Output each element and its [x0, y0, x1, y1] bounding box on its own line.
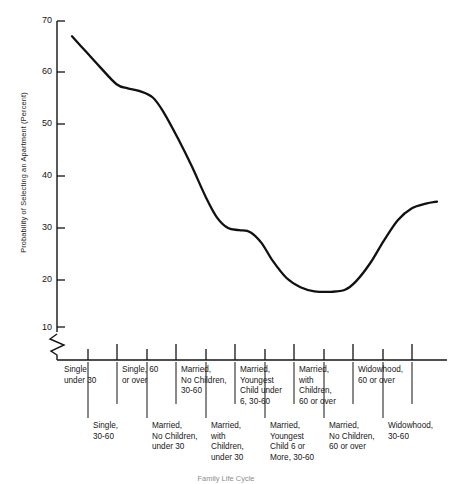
category-label-upper-5: Married, with Children, 60 or over: [299, 365, 353, 407]
figure-caption: Family Life Cycle: [0, 474, 452, 483]
category-label-upper-1: Single under 30: [64, 365, 116, 386]
chart-figure: Probability of Selecting an Apartment (P…: [0, 0, 452, 484]
data-curve: [72, 36, 437, 292]
category-label-lower-6: Widowhood, 30-60: [388, 421, 446, 442]
y-axis-break-icon: [50, 334, 64, 360]
x-tick-marks: [88, 344, 412, 360]
category-label-upper-2: Single, 60 or over: [122, 365, 174, 386]
category-label-lower-3: Married, with Children, under 30: [211, 421, 263, 463]
plot-area: [0, 0, 452, 484]
category-label-upper-6: Widowhood, 60 or over: [358, 365, 416, 386]
y-tick-marks: [57, 21, 65, 327]
category-label-lower-5: Married, No Children, 60 or over: [329, 421, 383, 453]
category-label-lower-1: Single, 30-60: [93, 421, 145, 442]
category-label-upper-3: Married, No Children, 30-60: [181, 365, 235, 397]
category-label-lower-2: Married, No Children, under 30: [152, 421, 206, 453]
category-label-upper-4: Married, Youngest Child under 6, 30-60: [240, 365, 294, 407]
category-label-lower-4: Married, Youngest Child 6 or More, 30-60: [270, 421, 326, 463]
